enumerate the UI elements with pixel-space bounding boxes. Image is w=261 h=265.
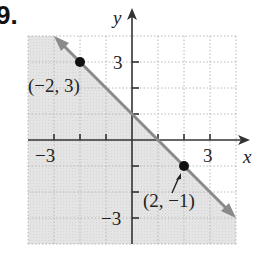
y-tick-label-3: 3 <box>113 52 123 73</box>
x-tick-label-neg3: −3 <box>35 145 55 166</box>
point-neg2-3 <box>75 57 85 67</box>
x-axis-label: x <box>242 146 252 167</box>
point-2-neg1 <box>179 161 189 171</box>
point-label-2-neg1: (2, −1) <box>143 190 195 212</box>
y-axis-label: y <box>111 7 122 28</box>
x-tick-label-3: 3 <box>203 145 213 166</box>
coordinate-graph: y x −3 3 3 −3 (−2, 3) (2, −1) <box>0 0 261 265</box>
point-label-neg2-3: (−2, 3) <box>28 75 80 97</box>
y-tick-label-neg3: −3 <box>101 208 121 229</box>
